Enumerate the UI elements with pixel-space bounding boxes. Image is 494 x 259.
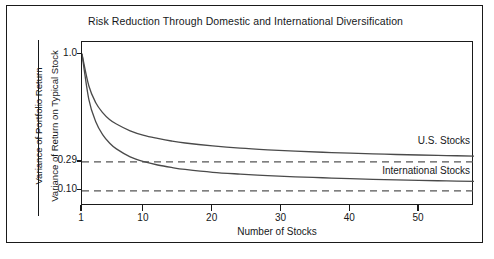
plot-svg	[82, 42, 474, 206]
series-label-international-stocks: International Stocks	[382, 165, 470, 176]
y-tick-label: 0.10	[58, 183, 77, 194]
x-tick-label: 30	[275, 212, 286, 223]
chart-title: Risk Reduction Through Domestic and Inte…	[7, 15, 484, 27]
series-line-u-s-stocks	[82, 54, 474, 156]
x-tick-mark	[211, 205, 212, 211]
x-tick-mark	[80, 205, 81, 211]
figure-card: Risk Reduction Through Domestic and Inte…	[6, 5, 483, 243]
x-tick-label: 50	[412, 212, 423, 223]
series-label-us-stocks: U.S. Stocks	[418, 135, 470, 146]
x-tick-mark	[417, 205, 418, 211]
x-tick-mark	[349, 205, 350, 211]
y-axis-tick-labels: 1.00.290.10	[43, 41, 77, 205]
plot-area	[81, 41, 473, 205]
x-tick-mark	[142, 205, 143, 211]
x-tick-label: 40	[344, 212, 355, 223]
y-tick-label: 1.0	[63, 47, 77, 58]
y-tick-label: 0.29	[58, 154, 77, 165]
x-tick-mark	[280, 205, 281, 211]
x-axis-title: Number of Stocks	[81, 226, 473, 237]
x-tick-label: 20	[206, 212, 217, 223]
x-tick-label: 1	[78, 212, 84, 223]
x-tick-label: 10	[137, 212, 148, 223]
